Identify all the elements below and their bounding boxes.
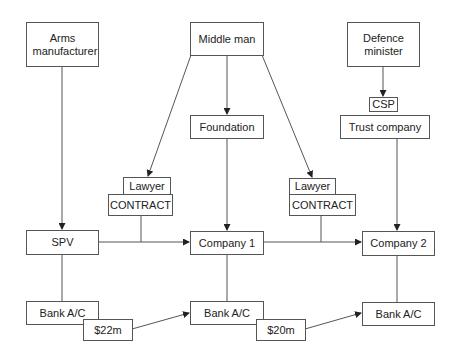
node-label: $20m — [267, 324, 295, 337]
node-contract-left: CONTRACT — [108, 194, 173, 216]
node-label: CSP — [372, 98, 395, 111]
node-arms-manufacturer: Arms manufacturer — [26, 22, 99, 67]
node-contract-right: CONTRACT — [289, 194, 356, 216]
node-middle-man: Middle man — [190, 22, 264, 56]
node-label: Defence minister — [359, 32, 409, 58]
node-lawyer-right: Lawyer — [289, 178, 336, 195]
node-label: SPV — [51, 236, 73, 249]
node-label: Bank A/C — [376, 308, 422, 321]
node-label: Trust company — [349, 121, 421, 134]
node-label: Foundation — [199, 121, 254, 134]
node-label: Company 2 — [370, 237, 426, 250]
node-bank-right: Bank A/C — [362, 302, 435, 326]
node-payment-22m: $22m — [83, 319, 133, 341]
node-company-1: Company 1 — [190, 231, 264, 255]
node-lawyer-left: Lawyer — [123, 177, 171, 195]
node-company-2: Company 2 — [362, 231, 435, 256]
node-foundation: Foundation — [190, 115, 264, 139]
node-label: Bank A/C — [40, 307, 86, 320]
node-bank-mid: Bank A/C — [190, 301, 264, 325]
node-label: $22m — [94, 324, 122, 337]
edge-20m-to-bank-right — [305, 313, 361, 329]
node-csp: CSP — [369, 97, 398, 112]
node-label: Company 1 — [199, 237, 255, 250]
node-label: CONTRACT — [110, 199, 171, 212]
node-label: Arms manufacturer — [33, 32, 93, 58]
node-label: Lawyer — [295, 180, 330, 193]
node-spv: SPV — [26, 230, 99, 255]
edge-22m-to-bank-mid — [132, 313, 189, 329]
node-label: CONTRACT — [292, 199, 353, 212]
node-defence-minister: Defence minister — [347, 22, 420, 67]
node-label: Bank A/C — [204, 307, 250, 320]
edge-middleman-to-lawyer-left — [148, 55, 191, 176]
edge-middleman-to-lawyer-right — [262, 55, 312, 177]
node-trust-company: Trust company — [340, 115, 430, 139]
node-label: Lawyer — [129, 180, 164, 193]
node-payment-20m: $20m — [256, 319, 306, 341]
node-label: Middle man — [199, 33, 256, 46]
